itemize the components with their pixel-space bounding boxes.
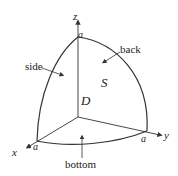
surface-symbol: S	[101, 76, 108, 89]
back-label: back	[120, 44, 141, 55]
side-label: side	[25, 61, 43, 72]
z-axis-label: z	[73, 11, 77, 22]
top-intercept-label: a	[78, 30, 83, 40]
back-pointer	[104, 52, 120, 62]
side-pointer	[42, 68, 62, 75]
region-label: D	[81, 94, 90, 107]
x-intercept-label: a	[33, 142, 38, 152]
side-edge	[37, 37, 78, 141]
x-axis-label: x	[12, 147, 17, 158]
bottom-edge	[37, 131, 147, 144]
octant-diagram	[0, 0, 178, 176]
bottom-label: bottom	[65, 159, 96, 170]
y-axis-label: y	[164, 130, 169, 141]
y-intercept-label: a	[141, 134, 146, 144]
